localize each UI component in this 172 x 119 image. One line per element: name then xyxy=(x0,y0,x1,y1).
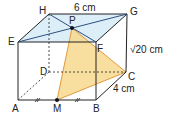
label-g: G xyxy=(130,6,138,17)
label-b: B xyxy=(93,103,100,114)
point-m xyxy=(55,98,59,102)
label-a: A xyxy=(12,103,19,114)
label-m: M xyxy=(53,103,61,114)
cuboid-diagram: H G E F P D C A M B 6 cm √20 cm 4 cm xyxy=(0,0,172,119)
diagram-svg: H G E F P D C A M B 6 cm √20 cm 4 cm xyxy=(0,0,172,119)
label-e: E xyxy=(8,36,15,47)
label-top-dimension: 6 cm xyxy=(74,2,96,13)
label-depth-dimension: 4 cm xyxy=(113,83,135,94)
label-height-dimension: √20 cm xyxy=(130,44,163,55)
label-h: H xyxy=(39,5,46,16)
label-d: D xyxy=(40,66,47,77)
label-p: P xyxy=(69,15,76,26)
label-f: F xyxy=(97,43,103,54)
label-c: C xyxy=(128,71,135,82)
point-p xyxy=(70,26,74,30)
